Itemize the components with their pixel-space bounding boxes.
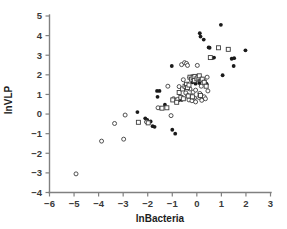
x-tick-label: −1: [167, 198, 179, 209]
data-point-open-square: [187, 83, 191, 87]
data-point-open-circle: [100, 139, 104, 143]
data-point-open-square: [160, 106, 164, 110]
x-tick-label: −4: [93, 198, 105, 209]
data-point-open-square: [186, 94, 190, 98]
x-tick-label: 1: [219, 198, 225, 209]
x-tick-label: −6: [44, 198, 55, 209]
y-tick-label: −4: [31, 187, 43, 198]
data-point-open-square: [199, 93, 203, 97]
data-point-filled: [199, 35, 203, 39]
data-point-open-square: [165, 106, 169, 110]
data-point-open-square: [190, 95, 194, 99]
data-point-open-square: [204, 84, 208, 88]
data-point-filled: [232, 64, 236, 68]
data-point-open-circle: [169, 114, 173, 118]
data-point-filled: [136, 110, 140, 114]
y-tick-label: −3: [31, 167, 42, 178]
data-point-open-circle: [122, 137, 126, 141]
y-tick-label: 3: [37, 50, 42, 61]
data-point-open-circle: [166, 84, 170, 88]
data-point-open-circle: [205, 75, 209, 79]
data-point-filled: [202, 38, 206, 42]
data-point-open-square: [181, 97, 185, 101]
data-point-open-circle: [194, 88, 198, 92]
y-tick-label: 1: [37, 89, 43, 100]
data-point-open-circle: [186, 63, 190, 67]
data-point-open-square: [171, 98, 175, 102]
x-tick-label: 3: [268, 198, 273, 209]
data-point-open-circle: [74, 172, 78, 176]
data-point-filled: [244, 48, 248, 52]
x-tick-label: 0: [194, 198, 199, 209]
y-tick-label: 0: [37, 108, 42, 119]
data-point-filled: [221, 73, 225, 77]
x-tick-label: −3: [118, 198, 129, 209]
data-point-filled: [232, 56, 236, 60]
data-point-open-circle: [194, 100, 198, 104]
data-point-filled: [156, 95, 160, 99]
data-point-open-square: [216, 46, 220, 50]
x-tick-label: −2: [142, 198, 153, 209]
data-point-filled: [153, 125, 157, 129]
data-point-open-square: [208, 56, 212, 60]
data-point-open-circle: [113, 121, 117, 125]
data-point-filled: [198, 31, 202, 35]
y-axis-title: lnVLP: [3, 86, 14, 115]
data-point-open-circle: [195, 63, 199, 67]
x-tick-label: −5: [69, 198, 81, 209]
data-point-open-square: [175, 100, 179, 104]
scatter-plot-figure: −4−3−2−1012345 −6−5−4−3−2−10123 lnBacter…: [0, 0, 287, 229]
y-tick-label: 4: [37, 30, 43, 41]
x-axis-ticks: −6−5−4−3−2−10123: [44, 193, 273, 209]
data-point-filled: [158, 89, 162, 93]
data-point-filled: [170, 128, 174, 132]
data-point-open-circle: [200, 98, 204, 102]
x-tick-label: 2: [243, 198, 248, 209]
data-point-open-square: [136, 120, 140, 124]
y-tick-label: 5: [37, 10, 43, 21]
data-point-open-square: [146, 121, 150, 125]
data-point-open-circle: [181, 78, 185, 82]
y-tick-label: 2: [37, 69, 42, 80]
y-axis-ticks: −4−3−2−1012345: [31, 10, 49, 198]
y-tick-label: −2: [31, 148, 42, 159]
data-point-filled: [208, 46, 212, 50]
x-axis-title: lnBacteria: [136, 213, 185, 224]
data-points: [74, 23, 247, 176]
data-point-open-circle: [123, 113, 127, 117]
data-point-open-square: [202, 80, 206, 84]
data-point-open-square: [226, 47, 230, 51]
data-point-filled: [219, 23, 223, 27]
plot-canvas: −4−3−2−1012345 −6−5−4−3−2−10123 lnBacter…: [0, 0, 287, 229]
data-point-filled: [173, 132, 177, 136]
data-point-open-circle: [156, 106, 160, 110]
data-point-filled: [170, 64, 174, 68]
y-tick-label: −1: [31, 128, 43, 139]
data-point-open-circle: [199, 84, 203, 88]
data-point-open-circle: [206, 89, 210, 93]
